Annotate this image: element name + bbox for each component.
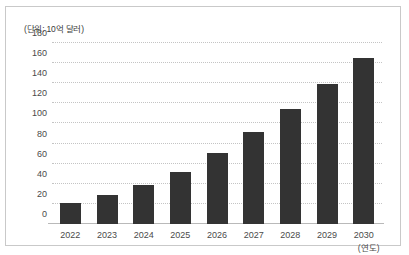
bar <box>207 153 228 224</box>
x-axis-tick-text: 2026 <box>207 230 227 240</box>
bar <box>170 172 191 224</box>
x-axis-tick-label: 2023 <box>97 230 117 240</box>
x-axis-tick-label: 2024 <box>134 230 154 240</box>
bar-slot: 2030(연도) <box>345 43 382 224</box>
y-axis-tick-label: 180 <box>32 28 47 38</box>
bar <box>317 84 338 224</box>
x-axis-tick-text: 2022 <box>60 230 80 240</box>
bar-slot: 2029 <box>309 43 346 224</box>
bar-slot: 2028 <box>272 43 309 224</box>
y-axis-tick-label: 80 <box>37 129 47 139</box>
bar-slot: 2022 <box>52 43 89 224</box>
x-axis-tick-label: 2027 <box>244 230 264 240</box>
y-axis-tick-label: 40 <box>37 169 47 179</box>
bar <box>353 58 374 224</box>
x-axis-caption: (연도) <box>358 241 380 253</box>
x-axis-tick-text: 2027 <box>244 230 264 240</box>
x-axis-tick-label: 2025 <box>170 230 190 240</box>
y-axis-tick-label: 20 <box>37 189 47 199</box>
x-axis-tick-text: 2025 <box>170 230 190 240</box>
y-axis-tick-label: 160 <box>32 48 47 58</box>
bar <box>280 109 301 224</box>
bar <box>97 195 118 224</box>
x-axis-tick-text: 2028 <box>280 230 300 240</box>
y-axis-tick-label: 0 <box>42 209 47 219</box>
x-axis-tick-label: 2029 <box>317 230 337 240</box>
chart-card: (단위: 10억 달러) 020406080100120140160180 20… <box>5 6 401 246</box>
y-axis-tick-label: 100 <box>32 108 47 118</box>
bar <box>133 185 154 224</box>
x-axis-tick-text: 2023 <box>97 230 117 240</box>
bar <box>243 132 264 225</box>
x-axis-tick-text: 2029 <box>317 230 337 240</box>
bar-slot: 2023 <box>89 43 126 224</box>
y-axis-tick-label: 120 <box>32 88 47 98</box>
x-axis-tick-label: 2022 <box>60 230 80 240</box>
x-axis-tick-label: 2026 <box>207 230 227 240</box>
x-axis-tick-text: 2030 <box>354 230 374 240</box>
bar-slot: 2025 <box>162 43 199 224</box>
bar-series: 202220232024202520262027202820292030(연도) <box>52 43 382 224</box>
x-axis-tick-text: 2024 <box>134 230 154 240</box>
x-axis-tick-label: 2028 <box>280 230 300 240</box>
x-axis-tick-label: 2030(연도) <box>348 230 380 253</box>
bar-slot: 2027 <box>235 43 272 224</box>
bar-slot: 2024 <box>125 43 162 224</box>
y-axis-tick-label: 140 <box>32 68 47 78</box>
bar <box>60 203 81 224</box>
plot-area: 020406080100120140160180 202220232024202… <box>52 43 382 224</box>
bar-slot: 2026 <box>199 43 236 224</box>
y-axis-tick-label: 60 <box>37 149 47 159</box>
